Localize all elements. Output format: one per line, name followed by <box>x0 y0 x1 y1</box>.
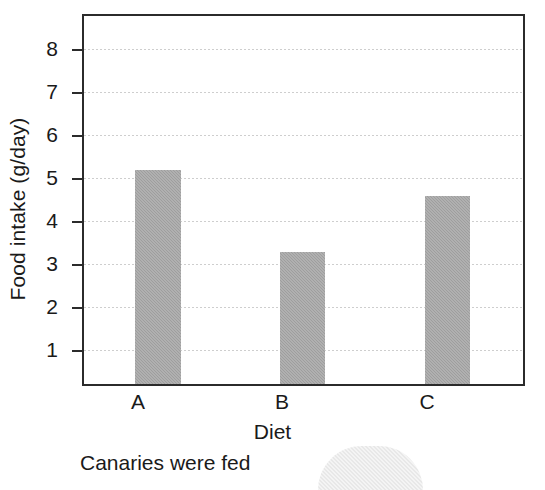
y-tick-label-5: 5 <box>32 167 58 188</box>
plot-area <box>82 14 525 386</box>
bar-A <box>135 170 181 384</box>
y-tick-label-4: 4 <box>32 210 58 231</box>
y-tick-mark-2 <box>72 307 84 309</box>
y-tick-label-8: 8 <box>32 38 58 59</box>
x-tick-label-A: A <box>103 391 173 413</box>
y-tick-mark-5 <box>72 178 84 180</box>
y-tick-label-1: 1 <box>32 339 58 360</box>
y-tick-label-6: 6 <box>32 124 58 145</box>
y-tick-mark-6 <box>72 135 84 137</box>
bar-C <box>425 196 470 384</box>
caption-text: Canaries were fed <box>80 452 250 474</box>
decorative-shape <box>318 446 423 490</box>
y-tick-mark-4 <box>72 221 84 223</box>
x-axis-title: Diet <box>0 420 545 444</box>
y-tick-label-7: 7 <box>32 81 58 102</box>
x-tick-label-B: B <box>247 391 317 413</box>
x-tick-label-C: C <box>392 391 462 413</box>
y-tick-label-2: 2 <box>32 296 58 317</box>
bar-B <box>280 252 325 384</box>
y-tick-mark-8 <box>72 49 84 51</box>
bars <box>84 16 523 384</box>
y-tick-mark-7 <box>72 92 84 94</box>
y-axis-title: Food intake (g/day) <box>5 78 31 340</box>
y-tick-mark-3 <box>72 264 84 266</box>
y-tick-mark-1 <box>72 350 84 352</box>
y-tick-label-3: 3 <box>32 253 58 274</box>
